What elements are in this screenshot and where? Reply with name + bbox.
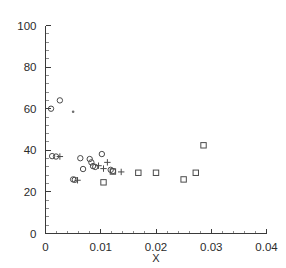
x-tick-label: 0.03 [200, 241, 222, 253]
data-markers-group [48, 98, 206, 185]
x-axis-title: X [152, 252, 160, 264]
x-tick-label: 0 [42, 241, 48, 253]
marker-square [153, 170, 158, 175]
marker-dot [72, 111, 75, 114]
marker-square [181, 177, 186, 182]
y-tick-label: 100 [17, 20, 36, 32]
x-axis-tick-labels: 00.010.020.030.04 [42, 241, 278, 253]
marker-circle [78, 156, 83, 161]
y-tick-label: 60 [24, 103, 37, 115]
marker-square [136, 170, 141, 175]
marker-square [201, 143, 206, 148]
minor-ticks-group [46, 34, 256, 234]
series-small-dots [72, 111, 75, 114]
scatter-plot-figure: 020406080100 00.010.020.030.04 X [0, 0, 286, 268]
x-tick-label: 0.01 [90, 241, 112, 253]
x-tick-label: 0.04 [255, 241, 278, 253]
y-tick-label: 0 [30, 228, 36, 240]
y-tick-label: 20 [24, 186, 37, 198]
series-circles [48, 98, 115, 183]
y-tick-label: 40 [24, 144, 37, 156]
plot-canvas: 020406080100 00.010.020.030.04 X [0, 0, 286, 268]
y-axis-tick-labels: 020406080100 [17, 20, 36, 240]
y-tick-label: 80 [24, 61, 37, 73]
marker-square [101, 180, 106, 185]
marker-circle [80, 166, 85, 171]
marker-circle [99, 151, 104, 156]
major-ticks-group [46, 26, 267, 234]
marker-circle [87, 156, 92, 161]
marker-circle [57, 98, 62, 103]
marker-square [193, 170, 198, 175]
series-squares [101, 143, 206, 185]
